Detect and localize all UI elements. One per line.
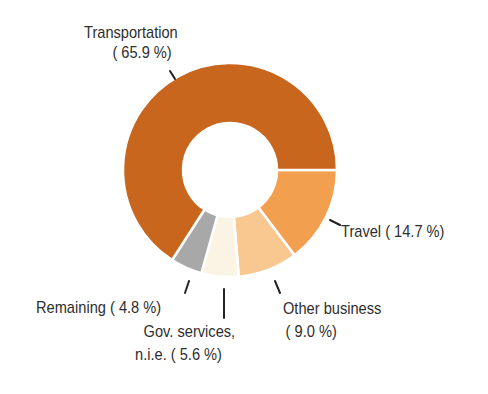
label-remaining-text: Remaining ( 4.8 %) [36, 298, 161, 317]
leader-other-business [275, 281, 280, 293]
label-transportation-value: ( 65.9 %) [84, 43, 178, 63]
label-gov-services-value: n.i.e. ( 5.6 %) [135, 343, 235, 366]
label-gov-services: Gov. services, n.i.e. ( 5.6 %) [135, 320, 235, 366]
leader-transportation [170, 71, 175, 79]
label-travel: Travel ( 14.7 %) [341, 222, 444, 242]
label-transportation: Transportation ( 65.9 %) [84, 23, 178, 63]
label-travel-text: Travel ( 14.7 %) [341, 222, 444, 241]
donut-slices [123, 63, 337, 277]
donut-chart [0, 0, 488, 394]
label-other-business: Other business ( 9.0 %) [283, 297, 381, 343]
label-remaining: Remaining ( 4.8 %) [36, 298, 161, 318]
leader-remaining [185, 281, 189, 293]
label-gov-services-name: Gov. services, [135, 320, 235, 343]
label-transportation-name: Transportation [84, 23, 178, 43]
label-other-business-value: ( 9.0 %) [283, 320, 381, 343]
leader-travel [330, 220, 340, 225]
label-other-business-name: Other business [283, 297, 381, 320]
